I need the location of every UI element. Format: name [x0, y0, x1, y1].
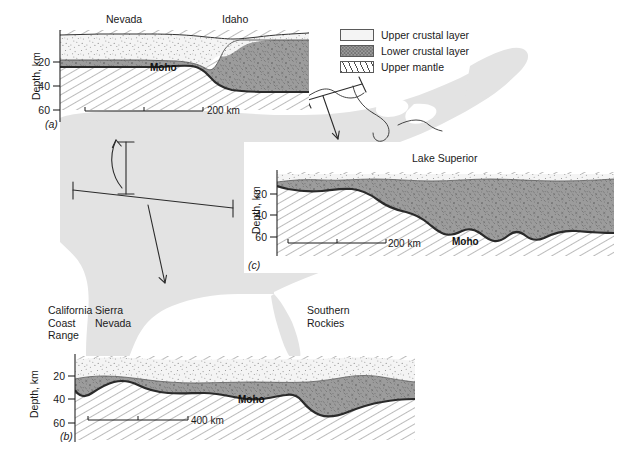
panel-b-label-southern-rockies: Southern Rockies	[307, 304, 350, 329]
legend-label-lower-crustal: Lower crustal layer	[381, 45, 469, 57]
legend-label-upper-crustal: Upper crustal layer	[381, 29, 469, 41]
legend-item-lower-crustal: Lower crustal layer	[340, 44, 469, 57]
panel-a-label-nevada: Nevada	[106, 13, 142, 26]
panel-a-tick-20: 20	[30, 56, 50, 68]
panel-b-label-california-coast-range: California Coast Range	[48, 304, 92, 342]
panel-b-moho-label: Moho	[238, 394, 265, 405]
figure-canvas	[0, 0, 624, 462]
legend-swatch-lower-crustal	[340, 45, 374, 57]
panel-c-tick-40: 40	[247, 209, 267, 221]
legend-item-upper-mantle: Upper mantle	[340, 60, 469, 73]
legend: Upper crustal layer Lower crustal layer …	[340, 28, 469, 76]
panel-b-tick-60: 60	[45, 417, 65, 429]
panel-c-label-lake-superior: Lake Superior	[412, 152, 477, 165]
panel-b-axis-title: Depth, km	[28, 370, 40, 418]
panel-c-moho-label: Moho	[452, 236, 479, 247]
panel-c-tick-60: 60	[247, 231, 267, 243]
figure-root: Upper crustal layer Lower crustal layer …	[0, 0, 624, 462]
panel-a-tick-60: 60	[30, 104, 50, 116]
panel-b-label-sierra-nevada: Sierra Nevada	[95, 304, 131, 329]
legend-label-upper-mantle: Upper mantle	[381, 61, 444, 73]
legend-swatch-upper-mantle	[340, 61, 374, 73]
panel-c-caption: (c)	[248, 259, 260, 271]
panel-b-tick-40: 40	[45, 393, 65, 405]
panel-c-tick-20: 20	[247, 188, 267, 200]
panel-a-scale-label: 200 km	[207, 105, 240, 116]
panel-a-section	[53, 30, 309, 122]
legend-item-upper-crustal: Upper crustal layer	[340, 28, 469, 41]
panel-b-caption: (b)	[60, 430, 73, 442]
legend-swatch-upper-crustal	[340, 29, 374, 41]
panel-b-scale-label: 400 km	[191, 415, 224, 426]
panel-a-moho-label: Moho	[150, 62, 177, 73]
panel-b-tick-20: 20	[45, 370, 65, 382]
panel-c-scale-label: 200 km	[388, 238, 421, 249]
panel-a-label-idaho: Idaho	[222, 13, 248, 26]
panel-c-section	[270, 170, 614, 256]
panel-a-tick-40: 40	[30, 80, 50, 92]
panel-a-caption: (a)	[45, 118, 58, 130]
